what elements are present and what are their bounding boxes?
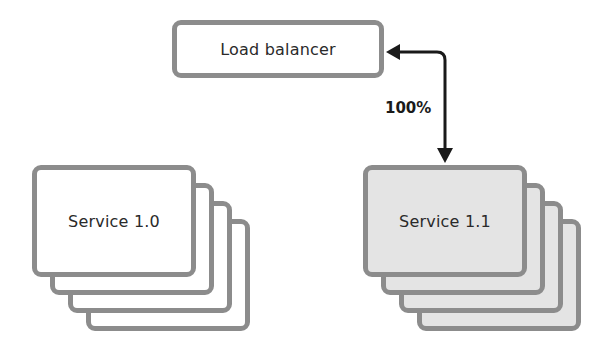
arrowhead-left-icon bbox=[386, 44, 400, 60]
service-1-0-label: Service 1.0 bbox=[37, 170, 191, 272]
arrowhead-down-icon bbox=[437, 148, 453, 163]
service-instance-front: Service 1.0 bbox=[32, 165, 196, 277]
service-1-1-label: Service 1.1 bbox=[368, 170, 522, 272]
traffic-percentage: 100% bbox=[385, 99, 431, 117]
service-instance-front: Service 1.1 bbox=[363, 165, 527, 277]
